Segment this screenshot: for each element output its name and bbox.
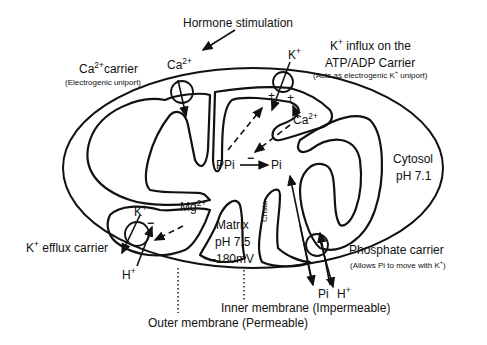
k-inner-text: K xyxy=(134,205,142,219)
k-influx-note: (Acts as electrogenic K+ uniport) xyxy=(313,71,427,81)
matrix-mv-label: -180mV xyxy=(212,252,254,266)
mg-label: Mg2+ xyxy=(180,200,206,214)
pi-bottom-label: Pi xyxy=(318,287,329,301)
k-influx-label-line1: K+ influx on the xyxy=(330,39,411,53)
k-inner-label: K+ xyxy=(134,205,147,219)
cytosol-label: Cytosol xyxy=(393,152,433,166)
k-efflux-k: K xyxy=(26,241,34,255)
ca-top-label: Ca2+ xyxy=(167,58,192,72)
phosphate-carrier-label: Phosphate carrier xyxy=(349,243,444,257)
hormone-stimulation-label: Hormone stimulation xyxy=(183,16,293,30)
h-left-label: H+ xyxy=(122,268,136,282)
minus-k: − xyxy=(147,216,154,230)
phosphate-carrier-note: (Allows Pi to move with K+) xyxy=(350,261,446,271)
k-inner-sup: + xyxy=(142,203,147,213)
cytosol-ph-label: pH 7.1 xyxy=(396,169,431,183)
ca-top-sup: 2+ xyxy=(182,56,192,66)
pi-label: Pi xyxy=(271,158,282,172)
k-top-sup: + xyxy=(296,46,301,56)
phosphate-note-a: (Allows Pi to move with K xyxy=(350,261,440,270)
k-top-text: K xyxy=(288,48,296,62)
mg-sup: 2+ xyxy=(197,198,207,208)
mg-text: Mg xyxy=(180,200,197,214)
carrier-text: carrier xyxy=(104,62,138,76)
ca-inner-sup: 2+ xyxy=(308,111,318,121)
mg-to-k-dashed xyxy=(155,226,183,240)
h-bottom-sup: + xyxy=(346,285,351,295)
ca-influx-arrow xyxy=(178,80,186,116)
ca-carrier-label: Ca2+carrier xyxy=(79,62,138,76)
crista-fold-right xyxy=(298,116,382,250)
ca-text: Ca xyxy=(79,62,94,76)
k-influx-label-line2: ATP/ADP Carrier xyxy=(325,56,415,70)
phosphate-note-b: ) xyxy=(443,261,446,270)
matrix-ph-label: pH 7.5 xyxy=(215,235,250,249)
h-bottom-text: H xyxy=(337,287,346,301)
k-influx-k: K xyxy=(330,39,338,53)
ppi-label: PPi xyxy=(216,158,235,172)
ca-carrier-note: (Electrogenic uniport) xyxy=(65,78,141,88)
k-top-label: K+ xyxy=(288,48,301,62)
plus-right: + xyxy=(287,91,294,105)
crista-label: Crista xyxy=(260,201,270,222)
ca-top-text: Ca xyxy=(167,58,182,72)
ca-sup: 2+ xyxy=(94,60,104,70)
ca-inner-label: Ca2+ xyxy=(293,113,318,127)
outer-membrane-label: Outer membrane (Permeable) xyxy=(148,316,308,330)
plus-left: + xyxy=(268,89,275,103)
k-influx-rest: influx on the xyxy=(343,39,411,53)
h-left-text: H xyxy=(122,268,131,282)
k-efflux-rest: efflux carrier xyxy=(39,241,108,255)
hormone-arrow xyxy=(203,30,235,50)
crista-fold-lower-left xyxy=(108,207,210,256)
inner-membrane xyxy=(87,94,210,205)
k-influx-note-a: (Acts as electrogenic K xyxy=(313,71,395,80)
ca-inner-text: Ca xyxy=(293,113,308,127)
k-efflux-carrier-label: K+ efflux carrier xyxy=(26,241,108,255)
inner-membrane-label: Inner membrane (Impermeable) xyxy=(221,301,390,315)
h-bottom-label: H+ xyxy=(337,287,351,301)
matrix-label: Matrix xyxy=(216,218,249,232)
minus-ppi: − xyxy=(247,151,254,165)
k-influx-note-b: uniport) xyxy=(398,71,427,80)
h-phosphate-arrow-down xyxy=(320,240,333,287)
h-left-sup: + xyxy=(131,266,136,276)
ppi-to-plus-dashed xyxy=(228,108,262,150)
